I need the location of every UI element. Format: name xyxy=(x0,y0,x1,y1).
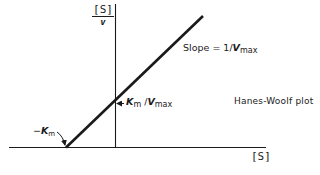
neg-km-subscript: m xyxy=(48,130,55,138)
x-intercept-annotation: −Km xyxy=(33,126,55,138)
slope-subscript: max xyxy=(240,46,257,55)
regression-line xyxy=(66,16,203,148)
plot-title: Hanes-Woolf plot xyxy=(234,97,313,106)
slope-annotation: Slope = 1/Vmax xyxy=(183,43,257,55)
slope-prefix: Slope = 1/ xyxy=(183,42,233,53)
neg-sign: − xyxy=(33,125,41,136)
vmax-symbol: V xyxy=(147,96,154,107)
y-axis-label: [S] v xyxy=(92,4,114,27)
y-intercept-annotation: Km /Vmax xyxy=(126,97,172,109)
plot-canvas xyxy=(0,0,320,175)
y-axis-label-numerator: [S] xyxy=(92,4,114,17)
km-subscript: m xyxy=(133,100,141,109)
x-intercept-arrow-icon xyxy=(57,132,65,145)
vmax-subscript: max xyxy=(155,100,172,109)
slope-symbol: V xyxy=(233,42,240,53)
y-axis-label-denominator: v xyxy=(92,17,114,27)
x-axis-label: [S] xyxy=(251,151,271,162)
